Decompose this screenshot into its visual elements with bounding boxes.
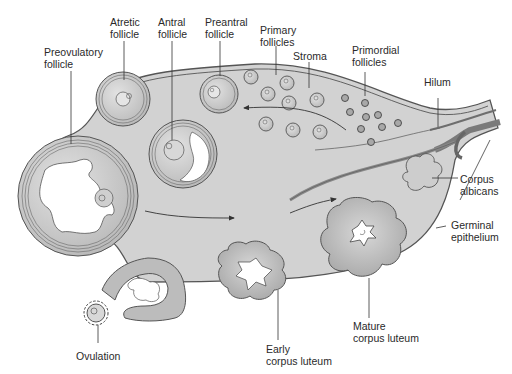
label-primordial-follicles: Primordial follicles (352, 44, 399, 68)
label-germinal-epithelium: Germinal epithelium (451, 219, 499, 243)
preovulatory-follicle (18, 136, 138, 256)
label-preovulatory-follicle: Preovulatory follicle (44, 46, 103, 70)
label-atretic-follicle: Atretic follicle (110, 16, 140, 40)
preantral-follicle (200, 75, 238, 113)
label-primary-follicles: Primary follicles (260, 24, 296, 48)
label-stroma: Stroma (293, 50, 327, 62)
label-antral-follicle: Antral follicle (158, 16, 187, 40)
label-hilum: Hilum (424, 76, 451, 88)
label-ovulation: Ovulation (76, 350, 120, 362)
label-mature-corpus-luteum: Mature corpus luteum (353, 320, 419, 344)
antral-follicle (149, 120, 217, 188)
ruptured-follicle (102, 258, 186, 321)
atretic-follicle (96, 72, 150, 126)
mature-corpus-luteum (321, 197, 407, 276)
label-corpus-albicans: Corpus albicans (460, 173, 499, 197)
ovulated-oocyte (84, 301, 108, 325)
label-preantral-follicle: Preantral follicle (205, 16, 248, 40)
label-early-corpus-luteum: Early corpus luteum (266, 343, 332, 367)
